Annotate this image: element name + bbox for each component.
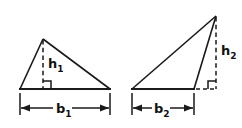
right-triangle-short-side: [194, 16, 216, 89]
figure-canvas: h1 b1: [0, 0, 242, 128]
h1-letter: h: [48, 56, 57, 71]
b1-letter: b: [56, 101, 65, 116]
right-triangle-group: h2: [131, 16, 237, 89]
b1-subscript: 1: [65, 109, 71, 119]
h2-letter: h: [221, 43, 230, 58]
b2-arrow-left: [133, 105, 142, 112]
h1-subscript: 1: [57, 64, 63, 74]
base-label-b2: b2: [154, 101, 170, 119]
left-triangle-left-side: [20, 39, 43, 89]
b1-arrow-left: [21, 105, 30, 112]
height-label-h2: h2: [221, 43, 237, 61]
b2-arrow-right: [184, 105, 193, 112]
b2-dimension-group: b2: [132, 93, 194, 119]
b2-subscript: 2: [163, 109, 169, 119]
left-right-angle-icon: [43, 81, 51, 89]
h2-subscript: 2: [230, 51, 236, 61]
triangle-figure: h1 b1: [0, 0, 242, 128]
b1-dimension-group: b1: [20, 93, 110, 119]
right-right-angle-icon: [208, 81, 216, 89]
height-label-h1: h1: [48, 56, 64, 74]
b1-arrow-right: [100, 105, 109, 112]
b2-letter: b: [154, 101, 163, 116]
left-triangle-group: h1: [19, 39, 111, 89]
base-label-b1: b1: [56, 101, 72, 119]
right-triangle-long-side: [132, 16, 216, 89]
